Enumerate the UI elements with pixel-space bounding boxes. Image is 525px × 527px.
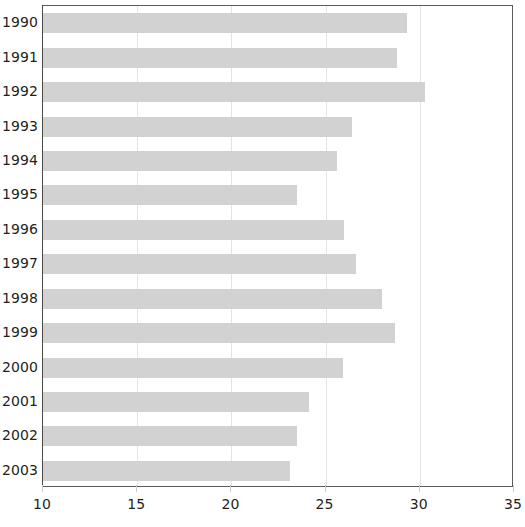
gridline-15	[137, 6, 138, 486]
y-axis-tick-label: 1995	[0, 187, 38, 201]
y-axis-tick-label: 1997	[0, 256, 38, 270]
x-axis-tick-label: 30	[399, 496, 439, 512]
bar	[43, 117, 352, 137]
y-axis-tick-label: 2001	[0, 394, 38, 408]
plot-area	[42, 5, 513, 487]
y-axis-labels: 1990199119921993199419951996199719981999…	[0, 5, 38, 487]
gridline-25	[326, 6, 327, 486]
x-axis-tick-mark	[325, 485, 326, 492]
x-axis-tick-label: 10	[22, 496, 62, 512]
bar	[43, 254, 356, 274]
x-axis-tick-mark	[42, 485, 43, 492]
y-axis-tick-label: 2000	[0, 360, 38, 374]
bar	[43, 461, 290, 481]
bar	[43, 392, 309, 412]
x-axis-tick-label: 35	[493, 496, 525, 512]
x-axis-tick-mark	[230, 485, 231, 492]
bar-chart: 1990199119921993199419951996199719981999…	[0, 0, 525, 527]
y-axis-tick-label: 1990	[0, 15, 38, 29]
gridline-30	[420, 6, 421, 486]
bar	[43, 13, 407, 33]
bar	[43, 289, 382, 309]
gridline-20	[231, 6, 232, 486]
bar	[43, 426, 297, 446]
bar	[43, 185, 297, 205]
y-axis-tick-label: 2003	[0, 463, 38, 477]
bar	[43, 82, 425, 102]
y-axis-tick-label: 1996	[0, 222, 38, 236]
y-axis-tick-label: 1992	[0, 84, 38, 98]
x-axis-tick-mark	[136, 485, 137, 492]
bar	[43, 48, 397, 68]
x-axis-tick-label: 25	[305, 496, 345, 512]
bar	[43, 151, 337, 171]
y-axis-tick-label: 1993	[0, 119, 38, 133]
x-axis-tick-mark	[513, 485, 514, 492]
y-axis-tick-label: 1994	[0, 153, 38, 167]
y-axis-tick-label: 2002	[0, 428, 38, 442]
y-axis-tick-label: 1999	[0, 325, 38, 339]
bar	[43, 358, 343, 378]
x-axis-labels: 101520253035	[0, 492, 525, 522]
y-axis-tick-label: 1991	[0, 50, 38, 64]
bar	[43, 323, 395, 343]
y-axis-tick-label: 1998	[0, 291, 38, 305]
x-axis-tick-label: 20	[210, 496, 250, 512]
x-axis-tick-label: 15	[116, 496, 156, 512]
bar	[43, 220, 344, 240]
x-axis-tick-mark	[419, 485, 420, 492]
